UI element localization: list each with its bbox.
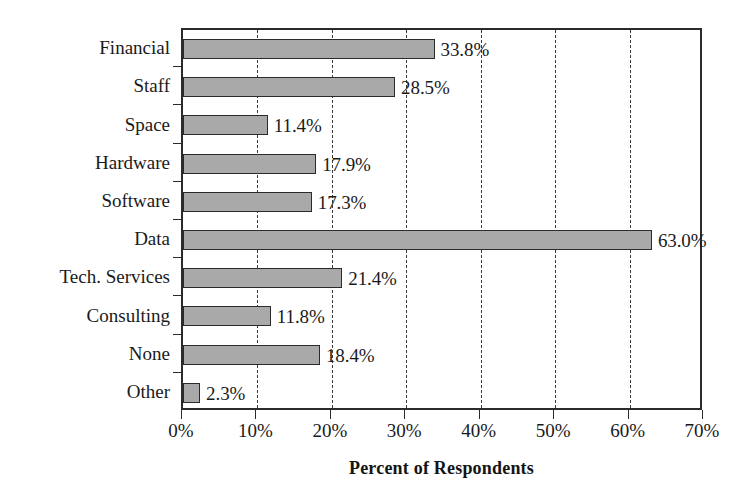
- bar-row: 18.4%: [183, 336, 700, 374]
- bar-tech-services: 21.4%: [183, 268, 342, 288]
- x-axis-title: Percent of Respondents: [181, 458, 702, 479]
- x-axis-tick-50: [553, 410, 554, 419]
- bar-row: 11.8%: [183, 297, 700, 335]
- bar-chart: FinancialStaffSpaceHardwareSoftwareDataT…: [0, 0, 751, 501]
- x-axis-tick-40: [479, 410, 480, 419]
- bar-value-label: 18.4%: [326, 345, 375, 364]
- bar-row: 11.4%: [183, 106, 700, 144]
- bar-staff: 28.5%: [183, 77, 395, 97]
- y-axis-label-data: Data: [13, 229, 181, 248]
- bar-financial: 33.8%: [183, 39, 435, 59]
- x-axis-tick-label: 30%: [387, 421, 422, 440]
- bar-value-label: 17.3%: [318, 192, 367, 211]
- bar-row: 17.9%: [183, 145, 700, 183]
- bar-value-label: 11.4%: [274, 116, 322, 135]
- x-axis-tick-label: 10%: [238, 421, 273, 440]
- bar-row: 33.8%: [183, 30, 700, 68]
- y-axis-tick: [173, 257, 181, 258]
- y-axis-label-hardware: Hardware: [13, 152, 181, 171]
- bar-value-label: 11.8%: [277, 307, 325, 326]
- bar-space: 11.4%: [183, 115, 268, 135]
- y-axis-label-software: Software: [13, 190, 181, 209]
- bar-hardware: 17.9%: [183, 154, 316, 174]
- y-axis-label-other: Other: [13, 381, 181, 400]
- bar-row: 28.5%: [183, 68, 700, 106]
- bar-consulting: 11.8%: [183, 306, 271, 326]
- y-axis-label-space: Space: [13, 114, 181, 133]
- x-axis-tick-label: 40%: [461, 421, 496, 440]
- y-axis-tick: [173, 143, 181, 144]
- x-axis-tick-label: 20%: [312, 421, 347, 440]
- x-axis-tick-0: [181, 410, 182, 419]
- x-axis-tick-label: 0%: [168, 421, 193, 440]
- bar-value-label: 33.8%: [441, 40, 490, 59]
- y-axis-tick: [173, 104, 181, 105]
- bar-value-label: 17.9%: [322, 154, 371, 173]
- bar-row: 63.0%: [183, 221, 700, 259]
- x-axis-tick-label: 50%: [536, 421, 571, 440]
- bar-value-label: 63.0%: [658, 231, 707, 250]
- bar-row: 2.3%: [183, 374, 700, 412]
- y-axis-label-financial: Financial: [13, 38, 181, 57]
- bar-row: 17.3%: [183, 183, 700, 221]
- bar-data: 63.0%: [183, 230, 652, 250]
- bar-row: 21.4%: [183, 259, 700, 297]
- y-axis-label-staff: Staff: [13, 76, 181, 95]
- x-axis-ticks: [181, 410, 702, 419]
- y-axis-label-none: None: [13, 343, 181, 362]
- x-axis-tick-70: [702, 410, 703, 419]
- x-axis-tick-label: 70%: [685, 421, 720, 440]
- bar-value-label: 21.4%: [348, 269, 397, 288]
- y-axis-label-consulting: Consulting: [13, 305, 181, 324]
- y-axis-tick: [173, 295, 181, 296]
- y-axis-label-tech-services: Tech. Services: [13, 267, 181, 286]
- bar-software: 17.3%: [183, 192, 312, 212]
- x-axis-tick-labels: 0%10%20%30%40%50%60%70%: [181, 421, 702, 447]
- y-axis-tick: [173, 66, 181, 67]
- x-axis-tick-label: 60%: [610, 421, 645, 440]
- bar-other: 2.3%: [183, 383, 200, 403]
- y-axis-tick: [173, 219, 181, 220]
- x-axis-tick-30: [404, 410, 405, 419]
- bar-value-label: 2.3%: [206, 383, 245, 402]
- x-axis-tick-10: [255, 410, 256, 419]
- y-axis-tick: [173, 334, 181, 335]
- y-axis-labels: FinancialStaffSpaceHardwareSoftwareDataT…: [0, 28, 181, 410]
- x-axis-tick-20: [330, 410, 331, 419]
- x-axis-tick-60: [628, 410, 629, 419]
- bar-value-label: 28.5%: [401, 78, 450, 97]
- plot-area: 33.8%28.5%11.4%17.9%17.3%63.0%21.4%11.8%…: [181, 28, 702, 410]
- bar-none: 18.4%: [183, 345, 320, 365]
- y-axis-tick: [173, 181, 181, 182]
- y-axis-tick: [173, 372, 181, 373]
